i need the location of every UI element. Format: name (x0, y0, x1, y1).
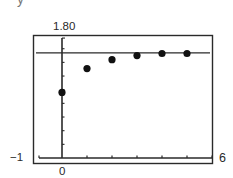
data-point (58, 89, 65, 96)
data-points (58, 50, 190, 96)
data-point (83, 65, 90, 72)
scatter-plot (0, 0, 233, 178)
data-point (183, 50, 190, 57)
data-point (133, 52, 140, 59)
data-point (108, 56, 115, 63)
data-point (158, 50, 165, 57)
